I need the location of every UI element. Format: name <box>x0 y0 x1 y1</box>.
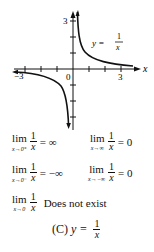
frac-den: x <box>95 230 99 240</box>
lim-word: lim <box>12 193 27 205</box>
limit-x-to-0-minus: limx→0⁻ 1x = −∞ <box>12 162 63 183</box>
x-axis-label: x <box>142 63 148 74</box>
tick-label-y-3: 3 <box>63 16 68 26</box>
svg-text:1: 1 <box>117 32 121 41</box>
frac-den: x <box>109 173 113 183</box>
lim-sub: x→0⁻ <box>12 176 27 183</box>
svg-text:x: x <box>115 43 120 52</box>
lim-sub: x→∞ <box>91 145 104 151</box>
caption-lhs: y = <box>71 222 87 237</box>
limit-x-to-0: limx→0 1x Does not exist <box>12 192 107 213</box>
function-label: y = 1 x <box>91 32 123 52</box>
lim-sub: x→0 <box>14 206 26 212</box>
tick-label-x-neg3: −3 <box>14 71 24 81</box>
frac-num: 1 <box>94 219 99 229</box>
frac-den: x <box>31 173 35 183</box>
lim-word: lim <box>90 132 105 144</box>
frac-den: x <box>31 142 35 152</box>
lim-sub: x→−∞ <box>88 176 105 182</box>
curve-right-arrow <box>76 10 80 16</box>
frac-num: 1 <box>31 192 36 202</box>
caption-label: (C) <box>52 222 68 237</box>
frac-num: 1 <box>109 131 114 141</box>
frac-den: x <box>31 203 35 213</box>
frac-num: 1 <box>31 131 36 141</box>
lim-sub: x→0⁺ <box>12 145 27 152</box>
figure-caption: (C) y = 1x <box>52 219 103 240</box>
curve-left-arrow-bottom <box>66 123 71 129</box>
limit-result: Does not exist <box>44 197 107 209</box>
lim-word: lim <box>12 163 27 175</box>
frac-den: x <box>109 142 113 152</box>
limit-result: = −∞ <box>40 167 63 179</box>
curve-right-branch <box>77 12 133 66</box>
x-axis-arrow-right <box>134 67 141 72</box>
limit-result: = 0 <box>118 167 132 179</box>
tick-label-x-3: 3 <box>118 72 123 82</box>
limit-result: = 0 <box>118 136 132 148</box>
lim-word: lim <box>12 132 27 144</box>
y-axis-arrow-up <box>71 11 76 18</box>
frac-num: 1 <box>31 162 36 172</box>
svg-text:y =: y = <box>91 38 104 48</box>
limit-result: = ∞ <box>40 136 57 148</box>
limit-x-to-0-plus: limx→0⁺ 1x = ∞ <box>12 131 57 152</box>
lim-word: lim <box>89 163 104 175</box>
frac-num: 1 <box>109 162 114 172</box>
limit-x-to-neg-infinity: limx→−∞ 1x = 0 <box>88 162 132 183</box>
graph-y-equals-1-over-x: x 0 −3 3 3 y = 1 x <box>0 0 154 130</box>
origin-label: 0 <box>66 72 71 82</box>
limit-x-to-infinity: limx→∞ 1x = 0 <box>90 131 132 152</box>
